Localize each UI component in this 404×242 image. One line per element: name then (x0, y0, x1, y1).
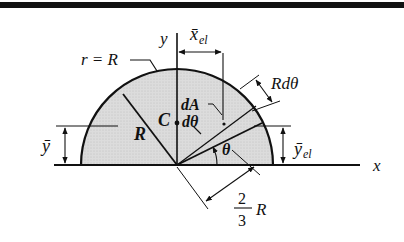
label-radius: R (133, 124, 146, 144)
semicircle-centroid-diagram: r = R y x x̄ el R C dA dθ Rdθ θ ȳ ȳ el 2… (0, 0, 404, 242)
radius-callout-leader (130, 60, 157, 71)
element-centroid-dot (222, 122, 225, 125)
label-x-bar-el-sub: el (199, 33, 208, 47)
label-y-bar-el-sub: el (303, 147, 312, 161)
label-y-bar-el: ȳ (292, 139, 303, 159)
two-thirds-dimension (206, 167, 254, 201)
rdtheta-ext-1 (240, 75, 259, 89)
rdtheta-ext-2 (252, 101, 280, 111)
label-y-axis: y (158, 29, 168, 48)
top-rule (0, 2, 404, 8)
rdtheta-dimension (256, 80, 272, 102)
label-centroid: C (158, 110, 171, 130)
label-theta: θ (222, 141, 231, 158)
label-dtheta: dθ (182, 113, 199, 130)
label-x-axis: x (372, 156, 381, 175)
label-dA: dA (181, 96, 200, 113)
two-thirds-ext-1 (177, 167, 208, 209)
label-x-bar-el: x̄ (189, 24, 198, 44)
label-two-thirds-numerator: 2 (238, 190, 246, 207)
label-two-thirds-denominator: 3 (238, 212, 246, 229)
label-two-thirds-R: R (255, 200, 267, 219)
centroid-dot (175, 121, 180, 126)
label-R-dtheta: Rdθ (270, 74, 298, 93)
label-radius-callout: r = R (81, 50, 119, 69)
label-y-bar: ȳ (40, 136, 51, 156)
